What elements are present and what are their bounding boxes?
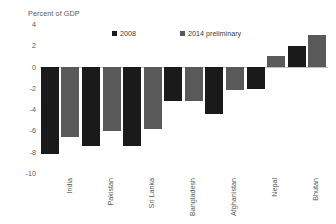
y-axis-tick-label: -8	[30, 147, 36, 156]
bar	[226, 67, 244, 90]
bar-group	[122, 24, 163, 173]
x-axis-label: Sri Lanka	[147, 178, 156, 208]
bar-group	[163, 24, 204, 173]
bar-chart: Percent of GDP 2008 2014 preliminary 420…	[0, 0, 336, 224]
y-axis-tick-label: -6	[30, 126, 36, 135]
bar-group	[205, 24, 246, 173]
bar	[267, 56, 285, 67]
bar	[185, 67, 203, 101]
x-axis-label: Bangladesh	[188, 178, 197, 216]
bar	[205, 67, 223, 115]
bar	[308, 35, 326, 67]
y-axis-tick-label: -10	[26, 169, 36, 178]
plot-area: 420-2-4-6-8-10 IndiaPakistanSri LankaBan…	[40, 24, 328, 173]
bar	[144, 67, 162, 130]
bar-group	[81, 24, 122, 173]
bar-group	[246, 24, 287, 173]
bar-group	[40, 24, 81, 173]
x-axis-label: India	[65, 178, 74, 194]
y-axis-tick-label: 4	[32, 20, 36, 29]
y-axis-tick-label: -4	[30, 105, 36, 114]
bar	[123, 67, 141, 147]
bar-group	[287, 24, 328, 173]
x-axis-label: Nepal	[270, 178, 279, 197]
bar	[82, 67, 100, 147]
x-axis-label: Afghanistan	[229, 178, 238, 216]
bar	[288, 46, 306, 66]
bar	[61, 67, 79, 137]
x-axis-label: Bhutan	[311, 178, 320, 201]
y-axis-tick-label: 2	[32, 41, 36, 50]
y-axis-tick-label: 0	[32, 62, 36, 71]
bar	[41, 67, 59, 154]
bar	[103, 67, 121, 132]
y-axis-tick-label: -2	[30, 83, 36, 92]
y-axis-title: Percent of GDP	[28, 9, 80, 18]
bar	[247, 67, 265, 89]
bar	[164, 67, 182, 101]
x-axis-label: Pakistan	[106, 178, 115, 206]
